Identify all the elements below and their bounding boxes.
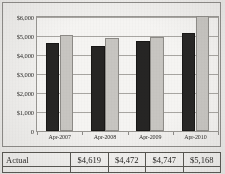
bar-budget-apr-2008	[105, 38, 119, 131]
y-axis-tick-label: $1,000	[3, 109, 34, 116]
table-row: Actual$4,619$4,472$4,747$5,168	[3, 153, 221, 167]
y-axis-tick-label: $4,000	[3, 52, 34, 59]
table-row-label: Actual	[3, 153, 71, 167]
bar-group	[173, 17, 218, 131]
y-axis-tick-label: $5,000	[3, 33, 34, 40]
y-axis-tick-label: $3,000	[3, 71, 34, 78]
bar-actual-apr-2010	[182, 33, 196, 131]
chart-frame: 0$1,000$2,000$3,000$4,000$5,000$6,000 Ap…	[2, 2, 221, 147]
table-cell-value-clipped	[71, 167, 109, 173]
table-cell-value-clipped	[183, 167, 221, 173]
y-axis-tick-label: 0	[3, 128, 34, 135]
table-cell-value-clipped	[146, 167, 184, 173]
data-table-body: Actual$4,619$4,472$4,747$5,168	[3, 153, 221, 173]
x-axis-tick-mark	[82, 132, 83, 135]
table-cell-value-clipped	[108, 167, 146, 173]
bar-group	[82, 17, 127, 131]
data-table: Actual$4,619$4,472$4,747$5,168	[2, 152, 221, 173]
y-axis-tick-label: $6,000	[3, 14, 34, 21]
table-cell-value: $4,472	[108, 153, 146, 167]
chart-plot-area	[36, 16, 219, 132]
x-axis-tick-label: Apr-2010	[173, 134, 217, 141]
table-row-clipped	[3, 167, 221, 173]
x-axis-tick-mark	[218, 132, 219, 135]
x-axis-tick-mark	[37, 132, 38, 135]
bar-group	[37, 17, 82, 131]
table-cell-value: $4,619	[71, 153, 109, 167]
bar-budget-apr-2009	[150, 37, 164, 131]
bar-group	[128, 17, 173, 131]
table-row-label-clipped	[3, 167, 71, 173]
x-axis-tick-label: Apr-2008	[83, 134, 127, 141]
x-axis-tick-label: Apr-2009	[128, 134, 172, 141]
bar-actual-apr-2007	[46, 43, 60, 131]
bar-budget-apr-2007	[60, 35, 74, 131]
x-axis-tick-mark	[173, 132, 174, 135]
table-cell-value: $4,747	[146, 153, 184, 167]
x-axis-tick-label: Apr-2007	[38, 134, 82, 141]
bar-actual-apr-2008	[91, 46, 105, 131]
x-axis-tick-mark	[128, 132, 129, 135]
bar-budget-apr-2010	[196, 16, 210, 131]
y-axis-tick-label: $2,000	[3, 90, 34, 97]
screenshot-root: 0$1,000$2,000$3,000$4,000$5,000$6,000 Ap…	[0, 0, 225, 174]
bar-actual-apr-2009	[136, 41, 150, 131]
table-cell-value: $5,168	[183, 153, 221, 167]
